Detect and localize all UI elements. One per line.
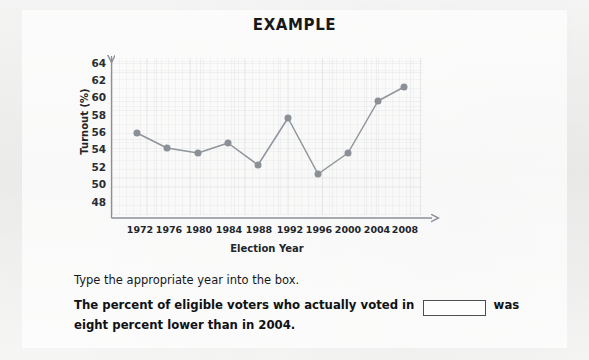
data-point-2004 xyxy=(375,98,382,105)
y-tick-52: 52 xyxy=(82,161,106,173)
turnout-line-chart: 64 62 60 58 56 54 52 50 48 1972 1976 198… xyxy=(0,0,589,268)
question-text-part1: The percent of eligible voters who actua… xyxy=(74,298,414,312)
x-tick-1976: 1976 xyxy=(152,224,186,235)
y-tick-48: 48 xyxy=(82,196,106,208)
data-point-1996 xyxy=(315,171,322,178)
x-tick-2008: 2008 xyxy=(388,224,422,235)
x-tick-1984: 1984 xyxy=(212,224,246,235)
x-axis-tick-labels: 1972 1976 1980 1984 1988 1992 1996 2000 … xyxy=(0,224,589,240)
data-point-2008 xyxy=(401,84,408,91)
data-point-1992 xyxy=(285,115,292,122)
data-point-1976 xyxy=(164,145,171,152)
x-tick-1980: 1980 xyxy=(182,224,216,235)
series-line xyxy=(137,87,404,174)
series-markers xyxy=(134,84,408,178)
data-point-2000 xyxy=(345,150,352,157)
instruction-text: Type the appropriate year into the box. xyxy=(74,272,544,289)
data-point-1988 xyxy=(255,162,262,169)
data-point-1972 xyxy=(134,130,141,137)
worksheet-page: EXAMPLE xyxy=(0,0,589,360)
data-point-1984 xyxy=(225,140,232,147)
y-axis-title: Turnout (%) xyxy=(79,82,90,162)
data-point-1980 xyxy=(195,150,202,157)
year-answer-input[interactable] xyxy=(423,300,486,316)
x-axis-title: Election Year xyxy=(112,243,422,254)
y-tick-50: 50 xyxy=(82,178,106,190)
y-tick-64: 64 xyxy=(82,57,106,69)
question-text: The percent of eligible voters who actua… xyxy=(74,296,544,335)
question-block: Type the appropriate year into the box. … xyxy=(74,272,544,335)
x-tick-1988: 1988 xyxy=(242,224,276,235)
